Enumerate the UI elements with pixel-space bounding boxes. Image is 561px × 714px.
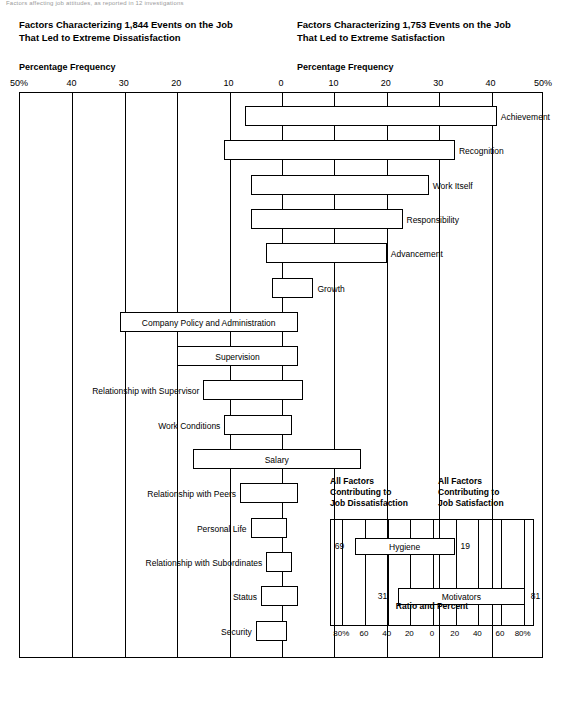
- factor-bar: Work Itself: [251, 175, 429, 195]
- factor-bar: Salary: [193, 449, 361, 469]
- inset-tick-label: 80%: [333, 629, 349, 638]
- factor-bar: Growth: [272, 278, 314, 298]
- inset-bar-name: Hygiene: [356, 539, 454, 556]
- inset-left-value: 69: [335, 538, 344, 555]
- inset-axis-label: Ratio and Percent: [330, 601, 534, 611]
- x-tick-label: 10: [224, 78, 234, 88]
- x-tick-label: 30: [433, 78, 443, 88]
- bar-row: Responsibility: [20, 209, 542, 229]
- x-tick-label: 30: [119, 78, 129, 88]
- x-tick-label: 20: [381, 78, 391, 88]
- bar-row: Supervision: [20, 346, 542, 366]
- factor-bar: Achievement: [245, 106, 497, 126]
- bar-row: Relationship with Supervisor: [20, 380, 542, 400]
- factor-bar: Recognition: [224, 140, 455, 160]
- factor-label: Salary: [194, 450, 360, 470]
- factor-bar: Status: [261, 586, 298, 606]
- factor-bar: Relationship with Supervisor: [203, 380, 303, 400]
- inset-tick-label: 20: [450, 629, 459, 638]
- inset-tick-label: 60: [496, 629, 505, 638]
- bar-row: Growth: [20, 278, 542, 298]
- x-tick-label: 0: [278, 78, 283, 88]
- inset-right-value: 19: [461, 538, 470, 555]
- x-tick-label: 50%: [10, 78, 28, 88]
- factor-label: Advancement: [391, 244, 443, 264]
- x-tick-label: 20: [171, 78, 181, 88]
- axis-label-left: Percentage Frequency: [19, 62, 116, 72]
- factor-label: Achievement: [501, 107, 550, 127]
- factor-label: Growth: [317, 279, 344, 299]
- factor-label: Work Itself: [433, 176, 473, 196]
- factor-label: Company Policy and Administration: [121, 313, 297, 333]
- factor-label: Responsibility: [407, 210, 459, 230]
- inset-tick-label: 20: [405, 629, 414, 638]
- factor-label: Recognition: [459, 141, 504, 161]
- factor-bar: Personal Life: [251, 518, 288, 538]
- x-tick-label: 40: [66, 78, 76, 88]
- factor-label: Personal Life: [197, 519, 247, 539]
- bar-row: Work Itself: [20, 175, 542, 195]
- bar-row: Work Conditions: [20, 415, 542, 435]
- inset-bar: Hygiene: [355, 538, 455, 555]
- inset-tick-label: 40: [473, 629, 482, 638]
- factor-bar: Relationship with Subordinates: [266, 552, 292, 572]
- factor-bar: Security: [256, 621, 287, 641]
- inset-tick-label: 80%: [515, 629, 531, 638]
- chart-title-left: Factors Characterizing 1,844 Events on t…: [19, 18, 233, 44]
- inset-title-left: All Factors Contributing to Job Dissatis…: [330, 476, 408, 509]
- inset-title-right: All Factors Contributing to Job Satisfac…: [438, 476, 504, 509]
- x-tick-label: 40: [486, 78, 496, 88]
- inset-tick-label: 40: [382, 629, 391, 638]
- factor-label: Relationship with Subordinates: [146, 553, 263, 573]
- factor-bar: Advancement: [266, 243, 387, 263]
- inset-tick-label: 60: [360, 629, 369, 638]
- bar-row: Advancement: [20, 243, 542, 263]
- x-tick-label: 50%: [534, 78, 552, 88]
- factor-label: Security: [221, 622, 252, 642]
- inset-chart: All Factors Contributing to Job Dissatis…: [330, 476, 534, 660]
- factor-bar: Work Conditions: [224, 415, 292, 435]
- top-note: Factors affecting job attitudes, as repo…: [6, 0, 184, 6]
- factor-bar: Supervision: [177, 346, 298, 366]
- chart-title-right: Factors Characterizing 1,753 Events on t…: [297, 18, 511, 44]
- axis-label-right: Percentage Frequency: [297, 62, 394, 72]
- factor-label: Work Conditions: [158, 416, 220, 436]
- bar-row: Recognition: [20, 140, 542, 160]
- bar-row: Salary: [20, 449, 542, 469]
- x-tick-label: 10: [328, 78, 338, 88]
- inset-tick-label: 0: [430, 629, 434, 638]
- factor-label: Status: [233, 587, 257, 607]
- factor-bar: Company Policy and Administration: [120, 312, 298, 332]
- factor-label: Supervision: [178, 347, 297, 367]
- factor-bar: Relationship with Peers: [240, 483, 298, 503]
- factor-label: Relationship with Supervisor: [92, 381, 199, 401]
- factor-label: Relationship with Peers: [147, 484, 236, 504]
- bar-row: Achievement: [20, 106, 542, 126]
- factor-bar: Responsibility: [251, 209, 403, 229]
- bar-row: Company Policy and Administration: [20, 312, 542, 332]
